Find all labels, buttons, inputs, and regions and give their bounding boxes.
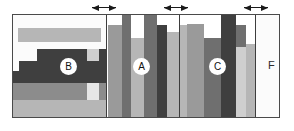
arrow-left-icon	[244, 5, 251, 11]
bar-a-5	[157, 25, 167, 117]
region-label-c: C	[209, 58, 226, 75]
band-b-6	[13, 49, 37, 61]
band-b-14	[87, 83, 99, 100]
arrow-right-icon	[181, 5, 188, 11]
band-b-1	[13, 15, 106, 28]
band-b-5	[13, 42, 106, 49]
band-b-8	[87, 49, 99, 61]
band-b-9	[99, 49, 106, 61]
bar-c-3	[204, 38, 221, 117]
arrow-left-icon	[164, 5, 171, 11]
band-b-13	[13, 83, 87, 100]
region-label-a: A	[133, 58, 150, 75]
boundary-marker-3	[244, 4, 268, 11]
region-label-f: F	[268, 59, 275, 71]
band-b-15	[99, 83, 106, 100]
region-label-b: B	[60, 58, 77, 75]
boundary-marker-2	[164, 4, 188, 11]
arrow-right-icon	[109, 5, 116, 11]
arrow-left-icon	[92, 5, 99, 11]
arrow-right-icon	[261, 5, 268, 11]
band-b-16	[13, 100, 106, 117]
bar-a-1	[108, 25, 122, 117]
bar-a-2	[122, 15, 131, 117]
bar-a-3	[131, 38, 144, 117]
figure-canvas: BACF	[0, 0, 294, 131]
band-b-3	[18, 28, 101, 42]
boundary-marker-1	[92, 4, 116, 11]
bar-c-1	[180, 25, 187, 117]
band-b-12	[13, 71, 106, 83]
bar-c-2	[187, 24, 204, 117]
bar-c-5b	[236, 47, 246, 117]
bar-a-6b	[167, 32, 179, 117]
